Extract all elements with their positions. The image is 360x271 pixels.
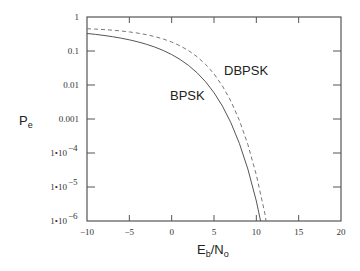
x-tick-label: 5 bbox=[212, 227, 217, 237]
y-tick-exponent: −5 bbox=[68, 177, 78, 187]
x-axis-title-main: E bbox=[197, 242, 206, 257]
y-tick-label: 1•10 bbox=[50, 216, 67, 226]
plot-border bbox=[87, 17, 341, 221]
y-tick-label: 1•10 bbox=[50, 182, 67, 192]
y-axis-title: Pe bbox=[19, 113, 33, 130]
dbpsk-series-label: DBPSK bbox=[224, 63, 268, 78]
y-tick-exponent: −6 bbox=[68, 211, 78, 221]
y-tick-label: 0.001 bbox=[59, 114, 79, 124]
x-axis-ticks: −10−505101520 bbox=[80, 17, 346, 237]
y-axis-title-main: P bbox=[19, 113, 28, 128]
y-tick-label: 1 bbox=[75, 12, 80, 22]
x-axis-title-mid: /N bbox=[211, 242, 224, 257]
x-tick-label: −10 bbox=[80, 227, 95, 237]
y-tick-label: 0.1 bbox=[68, 46, 79, 56]
plot-frame bbox=[87, 17, 341, 221]
ber-chart: −10−505101520 10.10.010.0011•10−41•10−51… bbox=[0, 0, 360, 271]
bpsk-curve bbox=[87, 33, 261, 221]
y-tick-label: 0.01 bbox=[63, 80, 79, 90]
x-axis-title: Eb/No bbox=[197, 242, 229, 259]
x-tick-label: −5 bbox=[125, 227, 135, 237]
series-layer bbox=[87, 29, 266, 221]
y-tick-exponent: −4 bbox=[68, 143, 78, 153]
svg-text:Pe: Pe bbox=[19, 113, 33, 130]
y-tick-label: 1•10 bbox=[50, 148, 67, 158]
svg-text:Eb/No: Eb/No bbox=[197, 242, 229, 259]
y-axis-title-sub: e bbox=[28, 120, 33, 130]
x-tick-label: 0 bbox=[169, 227, 174, 237]
bpsk-series-label: BPSK bbox=[170, 88, 205, 103]
y-axis-ticks: 10.10.010.0011•10−41•10−51•10−6 bbox=[50, 12, 341, 226]
x-tick-label: 15 bbox=[294, 227, 304, 237]
x-tick-label: 10 bbox=[252, 227, 262, 237]
x-tick-label: 20 bbox=[337, 227, 347, 237]
x-axis-title-sub2: o bbox=[224, 249, 229, 259]
